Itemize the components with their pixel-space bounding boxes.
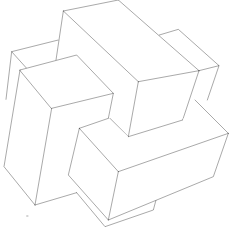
puzzle-diagram [0, 0, 232, 233]
interlocking-blocks-drawing [0, 0, 232, 233]
